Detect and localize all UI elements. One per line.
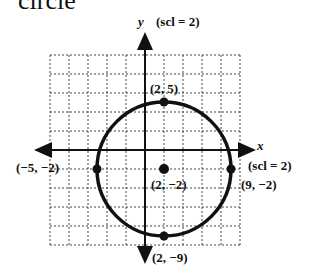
y-scale-label: (scl = 2) xyxy=(156,14,200,30)
x-axis-label: x xyxy=(257,138,264,154)
point-right xyxy=(227,165,236,174)
point-left xyxy=(93,165,102,174)
x-scale-label: (scl = 2) xyxy=(248,158,292,174)
point-label-center: (2, −2) xyxy=(151,177,187,193)
y-axis-label: y xyxy=(138,14,144,30)
point-label-right: (9, −2) xyxy=(241,177,277,193)
point-top xyxy=(160,98,169,107)
point-label-top: (2, 5) xyxy=(150,81,178,97)
point-label-bottom: (2, −9) xyxy=(152,250,188,266)
point-label-left: (−5, −2) xyxy=(16,160,59,176)
point-center xyxy=(159,164,169,174)
circle-graph xyxy=(0,0,321,280)
point-bottom xyxy=(160,232,169,241)
